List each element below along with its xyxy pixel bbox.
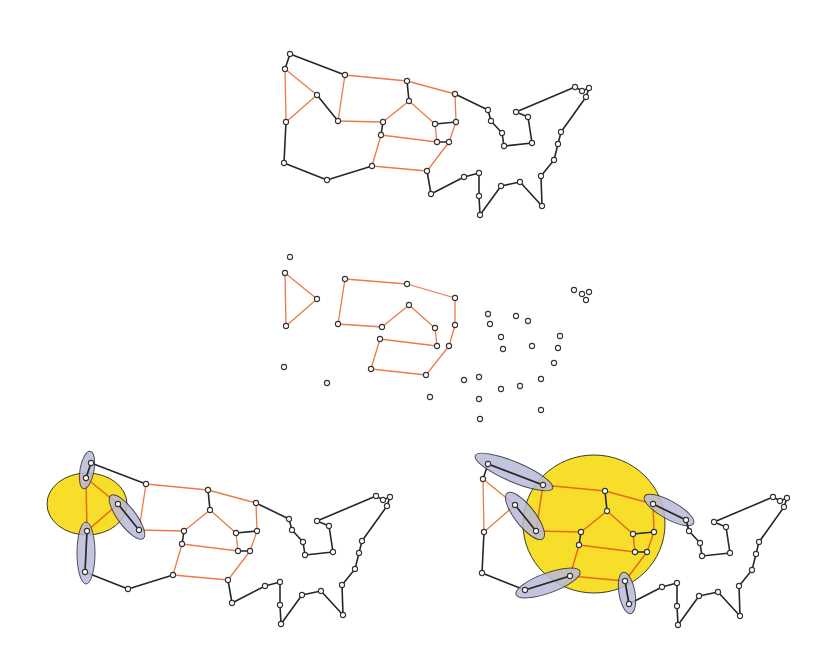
graph-node [498,386,503,391]
panel-orange-subgraph [281,254,591,421]
graph-node [406,302,411,307]
graph-node [286,516,291,521]
graph-node [432,121,437,126]
graph-node [477,416,482,421]
graph-node [404,281,409,286]
black-edge [327,166,372,180]
graph-node [379,324,384,329]
black-edge [329,526,333,552]
graph-node [299,592,304,597]
black-edge [455,94,488,110]
graph-node [557,333,562,338]
graph-node [380,119,385,124]
graph-node [277,579,282,584]
graph-node [335,118,340,123]
graph-node [576,542,581,547]
graph-node [233,530,238,535]
graph-node [517,383,522,388]
graph-node [579,291,584,296]
graph-node [287,51,292,56]
graph-node [302,552,307,557]
graph-node [406,98,411,103]
orange-edge [371,339,380,369]
black-edge [435,122,456,124]
graph-node [282,66,287,71]
graph-node [626,601,631,606]
orange-edge [208,490,256,503]
black-edge [718,592,740,616]
graph-node [318,588,323,593]
graph-node [229,600,234,605]
graph-node [525,318,530,323]
orange-edge [382,305,409,327]
graph-node [88,460,93,465]
graph-node [711,519,716,524]
graph-node [481,529,486,534]
graph-node [555,141,560,146]
black-edge [317,496,376,521]
graph-node [784,495,789,500]
black-edge [128,575,173,589]
graph-node [314,296,319,301]
orange-edge [407,81,455,94]
orange-edge [449,122,456,142]
orange-edge [407,284,455,298]
graph-node [578,529,583,534]
graph-node [428,191,433,196]
graph-node [207,507,212,512]
graph-node [555,345,560,350]
orange-edge [210,510,236,533]
graph-node [538,173,543,178]
black-edge [362,506,387,541]
graph-node [461,174,466,179]
graph-node [179,541,184,546]
graph-node [488,118,493,123]
graph-node [356,550,361,555]
black-edge [482,573,525,590]
graph-node [253,500,258,505]
graph-node [289,527,294,532]
graph-node [143,481,148,486]
orange-edge [372,166,427,171]
graph-node [675,622,680,627]
orange-edge [427,142,449,171]
graph-node [125,586,130,591]
black-edge [726,527,730,553]
panel-contraction-large [471,446,789,627]
graph-node [770,494,775,499]
graph-node [384,503,389,508]
orange-edge [250,531,257,551]
graph-node [277,602,282,607]
graph-node [674,603,679,608]
graph-node [247,548,252,553]
graph-node [476,170,481,175]
graph-node [181,528,186,533]
orange-edge [338,279,345,324]
black-edge [759,507,784,542]
graph-node [340,612,345,617]
graph-node [314,518,319,523]
graph-node [342,72,347,77]
black-edge [504,143,532,146]
orange-edge [173,575,228,580]
graph-node [476,193,481,198]
graph-node [697,540,702,545]
graph-node [330,549,335,554]
graph-node [753,551,758,556]
graph-node [650,501,655,506]
orange-edge [345,279,407,284]
graph-node [498,183,503,188]
graph-node [342,276,347,281]
orange-edge [286,95,317,122]
graph-node [427,394,432,399]
orange-edge [426,346,449,375]
graph-node [567,573,572,578]
graph-node [352,566,357,571]
black-edge [739,586,740,616]
graph-node [579,88,584,93]
graph-node [283,323,288,328]
graph-node [756,539,761,544]
graph-node [501,143,506,148]
graph-node [476,374,481,379]
graph-node [281,364,286,369]
